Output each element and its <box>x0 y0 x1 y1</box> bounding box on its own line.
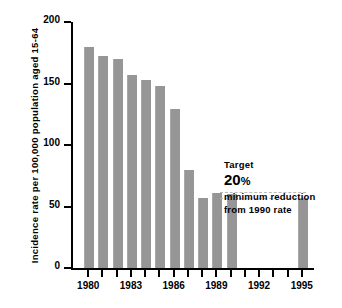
x-tick-mark <box>130 270 132 277</box>
percent-sign: % <box>241 175 251 187</box>
y-tick-label: 150 <box>43 76 60 87</box>
x-tick-mark <box>187 270 189 277</box>
bar <box>170 109 180 268</box>
chart-figure: Incidence rate per 100,000 population ag… <box>0 0 342 308</box>
x-tick-mark <box>215 270 217 277</box>
annotation-percent: 20% <box>224 171 342 190</box>
y-axis-tick: 150 <box>64 83 71 85</box>
bar <box>98 56 108 268</box>
y-tick-label: 200 <box>43 14 60 25</box>
bar <box>155 86 165 268</box>
y-tick-mark <box>64 206 71 208</box>
x-tick-mark <box>101 270 103 277</box>
bar <box>141 80 151 268</box>
x-tick-label: 1989 <box>205 280 227 291</box>
bar <box>127 75 137 268</box>
bar <box>212 193 222 268</box>
x-tick-mark <box>201 270 203 277</box>
y-tick-label: 100 <box>43 137 60 148</box>
x-tick-mark <box>158 270 160 277</box>
y-tick-mark <box>64 83 71 85</box>
x-tick-mark <box>258 270 260 277</box>
x-tick-label: 1992 <box>248 280 270 291</box>
bar <box>113 59 123 268</box>
x-tick-label: 1980 <box>77 280 99 291</box>
y-tick-mark <box>64 144 71 146</box>
y-tick-label: 0 <box>54 260 60 271</box>
x-tick-mark <box>287 270 289 277</box>
annotation-heading: Target <box>224 158 342 171</box>
bar <box>198 198 208 268</box>
x-tick-mark <box>144 270 146 277</box>
annotation-percent-value: 20 <box>224 171 241 188</box>
y-tick-label: 50 <box>49 199 60 210</box>
plot-area: 200150100500 198019831986198919921995 <box>71 22 313 268</box>
y-tick-mark <box>64 21 71 23</box>
x-axis-line <box>71 268 314 270</box>
annotation-line-3: minimum reduction <box>224 190 342 203</box>
x-tick-mark <box>301 270 303 277</box>
y-axis-line <box>71 22 73 269</box>
x-tick-mark <box>272 270 274 277</box>
x-tick-mark <box>87 270 89 277</box>
bar <box>84 47 94 268</box>
x-tick-label: 1995 <box>291 280 313 291</box>
y-tick-mark <box>64 267 71 269</box>
target-annotation: Target 20% minimum reduction from 1990 r… <box>224 158 342 216</box>
bar <box>184 170 194 268</box>
x-tick-mark <box>230 270 232 277</box>
y-axis-tick: 50 <box>64 206 71 208</box>
y-axis-tick: 100 <box>64 144 71 146</box>
x-tick-mark <box>116 270 118 277</box>
y-axis-tick: 0 <box>64 267 71 269</box>
annotation-line-4: from 1990 rate <box>224 203 342 216</box>
x-tick-label: 1986 <box>163 280 185 291</box>
y-axis-title: Incidence rate per 100,000 population ag… <box>29 6 40 286</box>
x-tick-mark <box>173 270 175 277</box>
x-tick-label: 1983 <box>120 280 142 291</box>
y-axis-tick: 200 <box>64 21 71 23</box>
x-tick-mark <box>244 270 246 277</box>
